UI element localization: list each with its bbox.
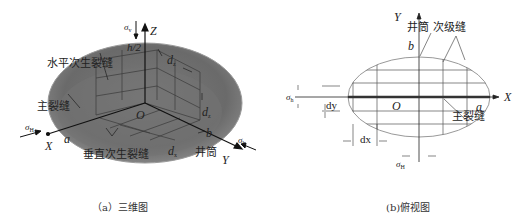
horizontal-secondary-fracture-label: 水平次生裂缝 [47,58,113,69]
dy-label: dy [326,100,337,111]
caption-a: （a）三维图 [92,199,148,214]
axes [295,13,499,162]
dx-bottom-label: dx [168,145,177,158]
x-axis-label: X [504,91,511,103]
sigma-h-label: σh [238,136,245,146]
dz-top-label: dz [167,54,176,67]
wellbore-label: 井筒 [407,22,429,33]
x-axis-label: X [45,140,52,152]
origin-label: O [392,100,401,112]
z-axis-label: Z [150,25,157,37]
panel-3d-view: σv Z h/2 dz 水平次生裂缝 dz 主裂缝 O σH a X b 垂直次… [0,0,280,216]
h-half-label: h/2 [127,42,141,53]
caption-b: (b)俯视图 [386,199,430,214]
main-fracture-label: 主裂缝 [37,101,70,112]
panel-top-view: Y 井筒 次级缝 b σh O a X dy 主裂缝 dx σH (b)俯视图 [280,0,527,216]
secondary-fracture-grid [280,0,527,216]
top-view-diagram [280,0,527,216]
dz-side-label: dz [202,106,211,119]
dx-label: dx [360,134,371,145]
secondary-fracture-label: 次级缝 [433,22,466,33]
wellbore-label: 井筒 [195,147,217,158]
y-axis-label: Y [222,154,229,166]
main-fracture-label: 主裂缝 [452,111,485,122]
b-label: b [206,127,212,139]
sigma-h-label: σh [286,93,293,103]
sigma-H-label: σH [396,160,405,170]
sigma-v-label: σv [124,23,131,33]
vertical-secondary-fracture-label: 垂直次生裂缝 [83,149,149,160]
sigma-H-label: σH [25,123,34,133]
b-label: b [408,40,414,52]
y-axis-label: Y [394,11,401,23]
a-label: a [64,133,70,145]
origin-label: O [136,109,145,121]
